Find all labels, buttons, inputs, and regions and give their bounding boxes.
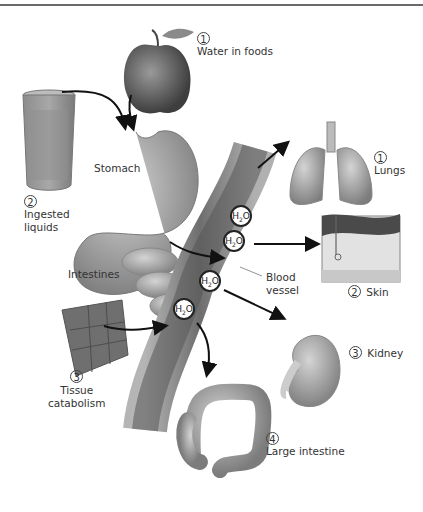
label-ingested-liquids: 2 Ingested liquids [24, 195, 70, 234]
kidney-icon [284, 335, 340, 406]
lungs-icon [290, 122, 372, 205]
h2o-molecule: H2O [230, 205, 252, 227]
glass-of-water-icon [23, 90, 75, 190]
label-intestines: Intestines [68, 268, 119, 281]
label-lungs: 1 Lungs [374, 151, 405, 177]
h2o-molecule: H2O [173, 298, 195, 320]
label-kidney: 3 Kidney [349, 346, 403, 360]
label-large-intestine: 4 Large intestine [266, 432, 345, 458]
label-water-in-foods: 1 Water in foods [197, 32, 273, 58]
label-stomach: Stomach [94, 162, 140, 175]
label-tissue-catabolism: 3 Tissue catabolism [48, 370, 105, 410]
blood-vessel-leader [240, 267, 262, 276]
tissue-block-icon [62, 300, 128, 376]
h2o-molecule: H2O [199, 270, 221, 292]
label-skin: 2 Skin [348, 285, 389, 299]
large-intestine-icon [184, 392, 263, 470]
label-blood-vessel: Blood vessel [266, 271, 299, 297]
diagram-artwork [0, 0, 423, 512]
skin-icon [322, 214, 400, 282]
h2o-molecule: H2O [223, 230, 245, 252]
apple-icon [124, 29, 194, 114]
